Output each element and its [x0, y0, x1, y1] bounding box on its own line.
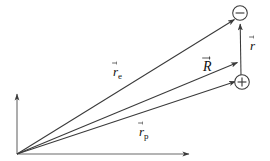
- vector-r-proton-line: [17, 82, 236, 155]
- positive-charge: [235, 75, 250, 90]
- label-r-proton-base: r: [139, 124, 144, 139]
- vector-overbar-icon: [138, 120, 143, 125]
- vector-overbar-icon: [202, 55, 211, 60]
- label-r-center-symbol: R: [203, 60, 212, 74]
- label-r-separation: r: [250, 37, 255, 53]
- vector-diagram-figure: re R rp r: [0, 0, 270, 161]
- label-r-proton-subscript: p: [144, 131, 149, 141]
- vector-r-center-line: [17, 63, 238, 155]
- label-r-electron-subscript: e: [118, 71, 122, 81]
- label-r-proton: rp: [139, 123, 149, 141]
- label-r-proton-symbol: r: [139, 125, 144, 138]
- vector-r-electron-line: [17, 20, 235, 155]
- label-r-separation-base: r: [250, 38, 255, 53]
- label-r-electron-symbol: r: [113, 65, 118, 78]
- diagram-canvas: [0, 0, 270, 161]
- label-r-center: R: [203, 58, 212, 74]
- label-r-separation-symbol: r: [250, 39, 255, 52]
- vector-overbar-icon: [249, 34, 254, 39]
- negative-charge: [233, 6, 248, 21]
- label-r-electron: re: [113, 63, 122, 81]
- label-r-electron-base: r: [113, 64, 118, 79]
- vector-r-separation-line: [240, 24, 241, 76]
- label-r-center-base: R: [203, 59, 212, 74]
- vector-overbar-icon: [112, 60, 117, 65]
